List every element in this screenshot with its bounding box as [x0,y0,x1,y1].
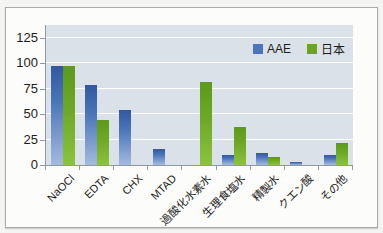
y-axis-label-0: 0 [4,158,38,172]
bar-日本-その他 [336,143,348,165]
bar-AAE-生理食塩水 [222,155,234,165]
legend-label-aae: AAE [267,42,291,56]
bar-日本-EDTA [97,120,109,165]
bar-日本-精製水 [268,157,280,165]
x-axis-tick-8 [318,166,319,170]
legend-label-japan: 日本 [321,40,345,57]
y-axis-label-25: 25 [4,133,38,147]
x-axis-tick-4 [181,166,182,170]
bar-AAE-MTAD [153,149,165,165]
bar-日本-過酸化水素水 [200,82,212,165]
y-axis-tick-125 [40,38,45,39]
x-axis-tick-1 [79,166,80,170]
bar-AAE-NaOCl [51,66,63,165]
x-axis-tick-2 [113,166,114,170]
y-axis-label-75: 75 [4,82,38,96]
legend-swatch-aae-icon [253,44,263,54]
x-axis-tick-0 [45,166,46,170]
x-axis-tick-5 [216,166,217,170]
x-axis-tick-3 [147,166,148,170]
bar-AAE-CHX [119,110,131,165]
y-axis-label-125: 125 [4,31,38,45]
bar-AAE-クエン酸 [290,162,302,165]
plot-area: AAE 日本 [45,25,353,166]
y-axis-label-100: 100 [4,56,38,70]
x-axis-tick-7 [284,166,285,170]
legend: AAE 日本 [253,40,345,57]
y-axis-tick-25 [40,140,45,141]
bar-AAE-EDTA [85,85,97,165]
y-axis-tick-100 [40,63,45,64]
y-axis-tick-50 [40,114,45,115]
chart-figure: AAE 日本 0255075100125NaOClEDTACHXMTAD過酸化水… [0,0,383,233]
bar-日本-NaOCl [63,66,75,165]
bar-AAE-精製水 [256,153,268,165]
y-axis-tick-75 [40,89,45,90]
bar-AAE-その他 [324,155,336,165]
legend-swatch-japan-icon [307,44,317,54]
y-axis-label-50: 50 [4,107,38,121]
bar-日本-生理食塩水 [234,127,246,165]
gridline-100 [46,62,353,63]
gridline-125 [46,37,353,38]
x-axis-tick-9 [352,166,353,170]
x-axis-tick-6 [250,166,251,170]
legend-item-aae: AAE [253,42,291,56]
legend-item-japan: 日本 [307,40,345,57]
